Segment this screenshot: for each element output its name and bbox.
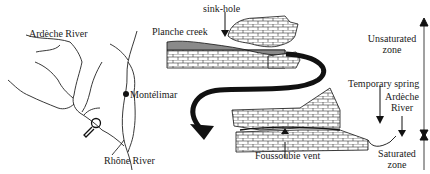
ardeche-line1: Ardèche <box>382 91 422 102</box>
karst-diagram: Ardèche River Montélimar Rhône River sin… <box>0 0 430 174</box>
foussoubie-vent-label: Foussoubie vent <box>255 150 320 161</box>
city-dot-icon <box>123 91 129 97</box>
spring-arrow-icon <box>376 116 384 124</box>
ardeche-line2: River <box>382 102 422 113</box>
saturated-line2: zone <box>372 159 422 170</box>
rhone-river-label: Rhône River <box>104 155 155 166</box>
temporary-spring-label: Temporary spring <box>348 78 419 89</box>
river-arrow-icon <box>398 130 406 137</box>
ardeche-river-map-label: Ardèche River <box>29 28 88 39</box>
planche-creek-label: Planche creek <box>152 26 208 37</box>
unsaturated-line1: Unsaturated <box>362 33 422 44</box>
sink-hole-label: sink-hole <box>203 3 240 14</box>
unsaturated-line2: zone <box>362 44 422 55</box>
flow-arrowhead-icon <box>190 124 214 140</box>
montelimar-label: Montélimar <box>130 89 177 100</box>
saturated-line1: Saturated <box>372 148 422 159</box>
river-map <box>8 31 137 170</box>
magnifier-icon <box>84 119 101 138</box>
ardeche-river-section-label: Ardèche River <box>382 91 422 113</box>
upper-cross-section <box>167 12 300 68</box>
unsaturated-zone-label: Unsaturated zone <box>362 33 422 55</box>
saturated-zone-label: Saturated zone <box>372 148 422 170</box>
